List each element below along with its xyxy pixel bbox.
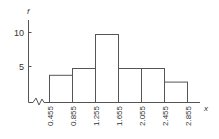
histogram-bar [96,35,119,103]
histogram-bar [165,82,188,102]
x-tick-label: 1.255 [92,105,101,126]
y-tick-label-10: 10 [14,28,24,38]
x-tick-label: 0.455 [46,105,55,126]
x-tick-labels: 0.4550.8551.2551.6552.0552.4552.855 [46,105,193,126]
x-tick-label: 2.055 [138,105,147,126]
histogram-chart: f 10 5 0.4550.8551.2551.6552.0552.4552.8… [0,0,219,139]
histogram-bar [142,69,165,103]
x-axis-label: x [203,104,209,113]
x-tick-label: 1.655 [115,105,124,126]
y-tick-label-5: 5 [19,62,24,72]
histogram-bar [119,69,142,103]
x-tick-label: 2.855 [184,105,193,126]
histogram-bars [50,35,188,103]
x-tick-label: 0.855 [69,105,78,126]
histogram-bar [50,75,73,102]
x-tick-label: 2.455 [161,105,170,126]
y-axis-label: f [27,7,30,16]
histogram-bar [73,69,96,103]
axis-break-icon [29,98,50,105]
